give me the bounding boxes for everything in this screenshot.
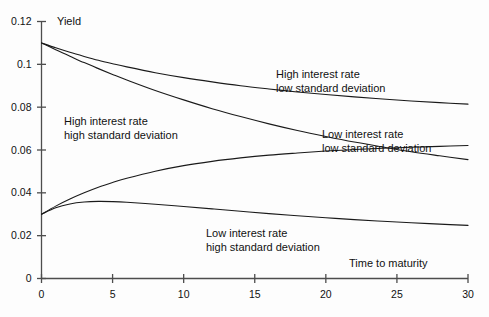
x-axis-tick-label: 5 [88, 289, 138, 300]
y-axis-tick-label: 0.12 [0, 16, 32, 27]
annotation-line-2: high standard deviation [206, 241, 320, 255]
x-axis-tick-label: 20 [301, 289, 351, 300]
annotation-line-1: Low interest rate [322, 128, 431, 142]
annotation-line-2: high standard deviation [64, 129, 178, 143]
curve-series-0 [42, 43, 469, 104]
annotation-high-rate-high-sd: High interest rate high standard deviati… [64, 115, 178, 142]
curve-series-2 [42, 146, 469, 215]
y-axis-tick-label: 0.02 [0, 230, 32, 241]
y-axis-tick-label: 0.06 [0, 145, 32, 156]
x-axis-tick-label: 25 [372, 289, 422, 300]
annotation-low-rate-high-sd: Low interest rate high standard deviatio… [206, 227, 320, 254]
curve-series-3 [42, 201, 469, 225]
chart-canvas [0, 0, 489, 317]
x-axis-tick-label: 0 [17, 289, 67, 300]
annotation-line-1: High interest rate [276, 68, 385, 82]
annotation-line-1: High interest rate [64, 115, 178, 129]
x-axis-tick-label: 10 [159, 289, 209, 300]
y-axis-tick-label: 0.1 [0, 59, 32, 70]
annotation-low-rate-low-sd: Low interest rate low standard deviation [322, 128, 431, 155]
y-axis-title: Yield [57, 16, 81, 27]
y-axis-tick-label: 0.08 [0, 102, 32, 113]
annotation-line-1: Low interest rate [206, 227, 320, 241]
annotation-line-2: low standard deviation [322, 142, 431, 156]
x-axis-title: Time to maturity [349, 258, 427, 269]
annotation-line-2: low standard deviation [276, 82, 385, 96]
x-axis-tick-label: 15 [230, 289, 280, 300]
y-axis-tick-label: 0.04 [0, 187, 32, 198]
x-axis-tick-label: 30 [443, 289, 489, 300]
yield-curve-chart: 00.020.040.060.080.10.12 051015202530 Yi… [0, 0, 489, 317]
y-axis-tick-label: 0 [0, 273, 32, 284]
annotation-high-rate-low-sd: High interest rate low standard deviatio… [276, 68, 385, 95]
